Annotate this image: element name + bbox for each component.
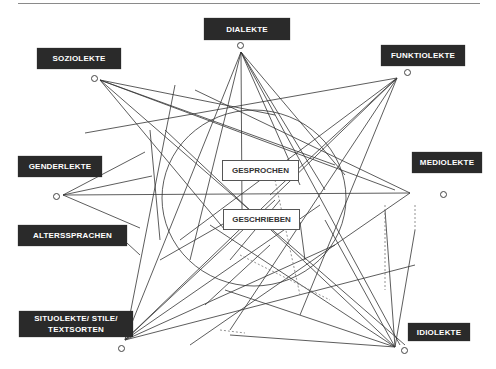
node-soziolekte: [91, 75, 98, 82]
node-idiolekte: [401, 347, 408, 354]
label-gesprochen: GESPROCHEN: [222, 160, 299, 181]
node-dialekte: [237, 42, 244, 49]
label-dialekte: DIALEKTE: [204, 18, 290, 40]
node-mediolekte: [440, 191, 447, 198]
label-idiolekte: IDIOLEKTE: [408, 323, 470, 341]
node-funktiolekte: [404, 69, 411, 76]
label-soziolekte: SOZIOLEKTE: [37, 48, 121, 69]
node-genderlekte: [53, 193, 60, 200]
node-situolekte: [118, 345, 125, 352]
label-mediolekte: MEDIOLEKTE: [412, 152, 482, 173]
label-funktiolekte: FUNKTIOLEKTE: [381, 45, 465, 66]
label-genderlekte: GENDERLEKTE: [18, 156, 102, 177]
label-situolekte: SITUOLEKTE/ STILE/ TEXTSORTEN: [19, 311, 133, 337]
label-geschrieben: GESCHRIEBEN: [223, 209, 300, 230]
label-alterssprachen: ALTERSSPRACHEN: [18, 225, 127, 246]
